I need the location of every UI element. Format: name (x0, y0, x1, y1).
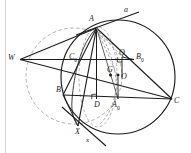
label-C0-sub: 0 (74, 57, 77, 63)
label-B: B (56, 86, 61, 94)
cevian-A-X (78, 28, 97, 126)
label-A0: A0 (112, 101, 120, 111)
label-A: A (89, 15, 94, 23)
label-A0-sub: 0 (117, 105, 120, 111)
label-tangent-a: a (124, 6, 128, 14)
geometry-canvas (0, 0, 191, 153)
label-C: C (174, 97, 179, 105)
label-O: O (121, 73, 127, 81)
label-B0: B0 (136, 53, 144, 63)
tangent-line-a (76, 12, 139, 35)
label-W: W (8, 54, 15, 62)
label-D: D (94, 101, 100, 109)
label-G: G (107, 66, 113, 74)
label-C0: C0 (69, 53, 77, 63)
label-line-x: x (86, 136, 89, 144)
label-X: X (75, 128, 80, 136)
dashed-auxiliary-circle (26, 28, 122, 124)
label-B0-sub: 0 (141, 57, 144, 63)
point-marker-O (117, 74, 120, 77)
geometry-figure: A a W C0 Q B0 G O B D A0 C X x (0, 0, 191, 153)
label-Q: Q (119, 49, 125, 57)
line-x (62, 107, 106, 146)
